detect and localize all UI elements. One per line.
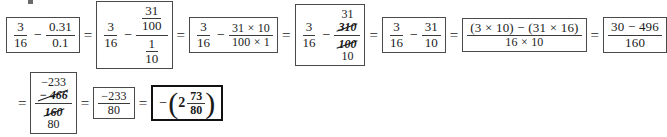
- step-5-expression: 3 16 − 31 10: [387, 20, 441, 49]
- denominator: 16: [194, 36, 213, 50]
- numerator: 73: [187, 90, 205, 104]
- numerator-cancel-stack: 31 310: [334, 7, 360, 35]
- fraction-thirtyone-tenths: 31 10: [422, 20, 441, 49]
- fraction-three-sixteenths: 3 16: [194, 20, 213, 49]
- numerator: 31: [142, 4, 161, 19]
- equals-sign: =: [446, 27, 462, 44]
- numerator: 31: [422, 20, 441, 35]
- equals-sign: =: [278, 27, 294, 44]
- step-3-box: 3 16 − 31 × 10 100 × 1: [189, 17, 278, 52]
- fraction-three-sixteenths: 3 16: [11, 20, 30, 49]
- equals-sign: =: [14, 95, 30, 112]
- fraction-thirty-minus-496: 30 − 496 160: [608, 20, 662, 49]
- cancelled-value: − 466: [38, 89, 68, 102]
- fraction-negative-233-over-80: −233 80: [98, 90, 130, 117]
- denominator: 80: [105, 104, 123, 117]
- denominator: 100 × 1: [229, 36, 273, 49]
- fraction-decimal: 0.31 0.1: [46, 20, 75, 49]
- numerator: 3: [303, 20, 316, 35]
- cancel-stack: 160 80: [44, 106, 64, 131]
- minus-operator: −: [30, 28, 46, 42]
- complex-fraction: 31 100 1 10: [136, 4, 168, 65]
- complex-numerator: 31 100: [136, 4, 168, 35]
- inner-fraction-bottom: 1 10: [142, 37, 161, 66]
- fraction-three-sixteenths: 3 16: [101, 20, 120, 49]
- whole-part: 2: [178, 95, 187, 111]
- open-paren: (: [168, 92, 178, 114]
- step-5-box: 3 16 − 31 10: [382, 17, 446, 52]
- cancel-stack: 31 310: [337, 8, 357, 33]
- fraction-with-cancellation: 31 310 100 10: [334, 7, 360, 62]
- fraction-cross-multiplied: (3 × 10) − (31 × 16) 16 × 10: [467, 21, 581, 49]
- numerator: 3: [104, 20, 117, 35]
- denominator: 0.1: [49, 36, 71, 50]
- denominator: 16: [11, 36, 30, 50]
- cancelled-value: 310: [337, 21, 357, 34]
- numerator: 0.31: [46, 20, 75, 35]
- fraction-with-cancellation: −233 − 466 160 80: [35, 75, 71, 130]
- equals-sign: =: [173, 27, 189, 44]
- fraction-three-sixteenths: 3 16: [387, 20, 406, 49]
- step-2-expression: 3 16 − 31 100 1 10: [101, 4, 167, 65]
- denominator: 16 × 10: [502, 36, 546, 49]
- step-8-box: −233 − 466 160 80: [30, 72, 76, 133]
- numerator: 3: [390, 20, 403, 35]
- cancel-replacement-value: 10: [341, 50, 353, 63]
- step-6-box: (3 × 10) − (31 × 16) 16 × 10: [462, 18, 586, 52]
- equation-row-2: = −233 − 466 160 80 =: [14, 72, 223, 134]
- numerator: 3: [197, 20, 210, 35]
- numerator: 1: [146, 37, 159, 52]
- equals-sign: =: [77, 95, 93, 112]
- denominator: 80: [187, 104, 205, 117]
- cancel-stack: 100 10: [337, 38, 357, 63]
- minus-operator: −: [120, 28, 136, 42]
- equals-sign: =: [80, 27, 96, 44]
- denominator: 160: [622, 36, 648, 50]
- step-4-expression: 3 16 − 31 310 100 10: [300, 7, 361, 62]
- numerator: 3: [14, 20, 27, 35]
- cancelled-value: 160: [44, 106, 64, 119]
- minus-operator: −: [213, 28, 229, 42]
- fraction-three-sixteenths: 3 16: [300, 20, 319, 49]
- final-answer-box: − ( 2 73 80 ): [151, 85, 223, 122]
- denominator: 10: [422, 36, 441, 50]
- cancelled-value: 100: [337, 38, 357, 51]
- numerator-cancel-stack: −233 − 466: [35, 75, 71, 103]
- step-2-box: 3 16 − 31 100 1 10: [96, 1, 172, 68]
- equals-sign: =: [365, 27, 381, 44]
- equals-sign: =: [135, 95, 151, 112]
- step-1-expression: 3 16 − 0.31 0.1: [11, 20, 75, 49]
- cancel-stack: −233 − 466: [38, 76, 68, 101]
- equation-row-1: 3 16 − 0.31 0.1 = 3 16 −: [6, 2, 667, 68]
- equals-sign: =: [587, 27, 603, 44]
- fractional-part: 73 80: [187, 90, 205, 117]
- minus-operator: −: [319, 28, 335, 42]
- cancel-replacement-value: 80: [48, 118, 60, 131]
- numerator: (3 × 10) − (31 × 16): [467, 21, 581, 36]
- denominator: 16: [300, 36, 319, 50]
- denominator: 16: [387, 36, 406, 50]
- step-9-box: −233 80: [93, 87, 135, 120]
- numerator: 31 × 10: [229, 22, 273, 36]
- mixed-number: 2 73 80: [178, 90, 205, 117]
- step-3-expression: 3 16 − 31 × 10 100 × 1: [194, 20, 273, 49]
- close-paren: ): [205, 92, 215, 114]
- step-7-box: 30 − 496 160: [603, 17, 667, 52]
- numerator: 30 − 496: [608, 20, 662, 35]
- numerator: −233: [98, 90, 130, 104]
- inner-fraction-top: 31 100: [139, 4, 165, 33]
- complex-denominator: 1 10: [139, 36, 164, 66]
- denominator: 100: [139, 19, 165, 33]
- denominator-cancel-stack: 100 10: [334, 36, 360, 63]
- denominator-cancel-stack: 160 80: [41, 104, 67, 131]
- denominator: 10: [142, 52, 161, 66]
- fraction-products: 31 × 10 100 × 1: [229, 22, 273, 49]
- negative-sign: −: [159, 95, 168, 111]
- minus-operator: −: [406, 28, 422, 42]
- step-4-box: 3 16 − 31 310 100 10: [295, 4, 366, 65]
- denominator: 16: [101, 36, 120, 50]
- step-1-box: 3 16 − 0.31 0.1: [6, 17, 80, 52]
